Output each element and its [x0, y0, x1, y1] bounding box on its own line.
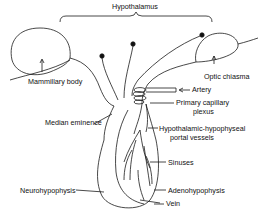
label-sinuses: Sinuses — [168, 159, 194, 166]
label-portal-1: Hypothalamic-hypophyseal — [159, 125, 245, 132]
label-primary-capillary: Primary capillary — [176, 99, 229, 106]
label-neurohypophysis: Neurohypophysis — [20, 187, 76, 194]
label-optic-chiasma: Optic chiasma — [204, 73, 250, 80]
pituitary-diagram — [0, 0, 269, 214]
hypothalamus-brace — [60, 12, 212, 22]
label-adenohypophysis: Adenohypophysis — [168, 187, 225, 194]
label-portal-2: portal vessels — [170, 134, 214, 141]
label-hypothalamus: Hypothalamus — [112, 3, 158, 10]
label-artery: Artery — [192, 86, 211, 93]
label-mammillary-body: Mammillary body — [28, 78, 82, 85]
label-median-eminence: Median eminence — [45, 119, 102, 126]
label-plexus: plexus — [193, 108, 214, 115]
mammillary-body-outline — [11, 28, 70, 75]
label-vein: Vein — [166, 200, 180, 207]
